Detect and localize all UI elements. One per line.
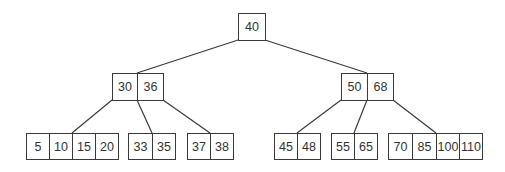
- key-cell: 68: [368, 74, 393, 100]
- key-cell: 37: [188, 134, 211, 159]
- edge-root-to-right-internal: [265, 40, 367, 73]
- root-node: 40: [238, 13, 266, 41]
- edge-left-internal-to-leaf-1: [72, 100, 112, 133]
- key-cell: 85: [413, 134, 437, 159]
- edge-root-to-left-internal: [137, 40, 238, 73]
- internal-node-right: 50 68: [341, 73, 394, 101]
- key-cell: 15: [73, 134, 96, 159]
- key-cell: 38: [211, 134, 233, 159]
- leaf-node-2: 33 35: [128, 133, 176, 160]
- key-cell: 110: [460, 134, 482, 159]
- edge-right-internal-to-leaf-5: [354, 100, 367, 133]
- key-cell: 5: [27, 134, 50, 159]
- key-cell: 55: [332, 134, 355, 159]
- leaf-node-3: 37 38: [187, 133, 234, 160]
- leaf-node-5: 55 65: [331, 133, 378, 160]
- edge-right-internal-to-leaf-4: [297, 100, 341, 133]
- leaf-node-1: 5 10 15 20: [26, 133, 119, 160]
- edge-left-internal-to-leaf-3: [163, 100, 210, 133]
- leaf-node-4: 45 48: [274, 133, 321, 160]
- key-cell: 40: [239, 14, 265, 40]
- key-cell: 36: [138, 74, 163, 100]
- key-cell: 100: [437, 134, 460, 159]
- key-cell: 45: [275, 134, 298, 159]
- key-cell: 48: [298, 134, 320, 159]
- internal-node-left: 30 36: [112, 73, 164, 101]
- key-cell: 35: [153, 134, 175, 159]
- edge-left-internal-to-leaf-2: [137, 100, 152, 133]
- key-cell: 20: [96, 134, 118, 159]
- key-cell: 30: [113, 74, 138, 100]
- key-cell: 33: [129, 134, 153, 159]
- key-cell: 65: [355, 134, 377, 159]
- leaf-node-6: 70 85 100 110: [388, 133, 483, 160]
- key-cell: 70: [389, 134, 413, 159]
- b-tree-diagram: 40 30 36 50 68 5 10 15 20 33 35 37 38 45…: [0, 0, 505, 172]
- key-cell: 10: [50, 134, 73, 159]
- key-cell: 50: [342, 74, 368, 100]
- edge-right-internal-to-leaf-6: [393, 100, 436, 133]
